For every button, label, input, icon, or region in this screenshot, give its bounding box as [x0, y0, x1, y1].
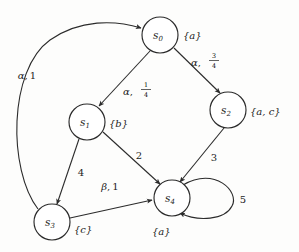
edge-label-s0-s2-text: α,	[191, 57, 201, 68]
edge-s1-s3	[57, 139, 79, 204]
node-s0[interactable]: s0 {a}	[142, 17, 202, 53]
node-s0-atomic-props: {a}	[183, 30, 202, 41]
node-s1-atomic-props: {b}	[109, 118, 128, 129]
node-s3-atomic-props: {c}	[74, 224, 92, 235]
edge-label-s0-s2: α, 3 4	[191, 52, 219, 70]
edge-s0-s1	[99, 51, 150, 106]
node-s4[interactable]: s4 {a}	[152, 180, 190, 237]
edge-label-s0-s2-denominator: 4	[212, 62, 216, 70]
diagram-canvas: s0 {a} s1 {b} s2 {a, c} s3 {c} s4 {a} α,	[0, 0, 299, 252]
node-s4-atomic-props: {a}	[152, 226, 171, 237]
node-s3[interactable]: s3 {c}	[34, 204, 92, 240]
edge-label-s2-s4: 3	[211, 152, 217, 163]
edge-label-s0-s1: α, 1 4	[123, 81, 151, 99]
edge-label-s0-s1-numerator: 1	[144, 81, 148, 89]
node-s2-atomic-props: {a, c}	[250, 106, 281, 117]
edge-label-s4-self-loop: 5	[240, 194, 246, 205]
edge-label-s1-s3: 4	[78, 167, 84, 178]
node-s2[interactable]: s2 {a, c}	[210, 92, 281, 128]
edge-label-s1-s4: 2	[136, 150, 142, 161]
edge-label-s3-s4: β,1	[100, 181, 118, 192]
edge-label-s0-s1-denominator: 4	[144, 91, 148, 99]
edge-s1-s4	[103, 132, 160, 184]
automaton-diagram: s0 {a} s1 {b} s2 {a, c} s3 {c} s4 {a} α,	[0, 0, 299, 252]
edge-label-s3-s0: α,1	[18, 70, 36, 81]
node-s1[interactable]: s1 {b}	[69, 104, 128, 140]
edge-s2-s4	[180, 128, 224, 182]
edge-s3-s4	[70, 200, 152, 218]
edge-label-s0-s1-text: α,	[123, 86, 133, 97]
edge-label-s0-s2-numerator: 3	[212, 52, 216, 60]
